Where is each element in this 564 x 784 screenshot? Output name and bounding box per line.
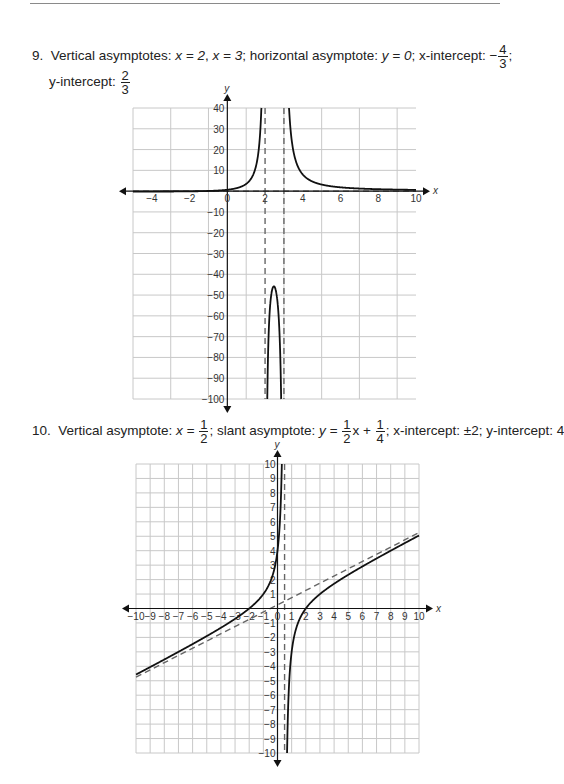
arrow-right-icon xyxy=(426,605,433,613)
x-tick-label: 7 xyxy=(374,611,380,622)
graph-problem-10: xy−10−9−8−7−6−5−4−3−2−101234567891010987… xyxy=(122,439,442,767)
x-tick-label: −4 xyxy=(215,611,227,622)
x-tick-label: −8 xyxy=(159,611,171,622)
x-tick-label: 5 xyxy=(345,611,351,622)
y-tick-label: −50 xyxy=(207,290,224,301)
x-tick-label: 3 xyxy=(317,611,323,622)
arrow-down-icon xyxy=(274,760,282,767)
y-tick-label: −8 xyxy=(264,719,276,730)
x-tick-label: −10 xyxy=(128,611,145,622)
y-tick-label: 30 xyxy=(213,124,225,135)
arrow-up-icon xyxy=(223,94,231,101)
y-tick-label: −10 xyxy=(259,748,276,759)
x-tick-label: −7 xyxy=(173,611,185,622)
y-tick-label: −9 xyxy=(264,734,276,745)
y-tick-label: −7 xyxy=(264,705,276,716)
y-tick-label: 40 xyxy=(213,103,225,114)
y-tick-label: −30 xyxy=(207,249,224,260)
y-tick-label: −70 xyxy=(207,332,224,343)
x-tick-label: −9 xyxy=(144,611,156,622)
x-tick-label: 10 xyxy=(410,193,422,204)
y-tick-label: 10 xyxy=(264,459,276,470)
x-tick-label: −5 xyxy=(201,611,213,622)
x-tick-label: 4 xyxy=(300,193,306,204)
x-tick-label: 0 xyxy=(275,611,281,622)
y-tick-label: 5 xyxy=(270,531,276,542)
y-tick-label: 10 xyxy=(213,165,225,176)
y-tick-label: 1 xyxy=(270,589,276,600)
y-tick-label: 9 xyxy=(270,473,276,484)
y-tick-label: 6 xyxy=(270,517,276,528)
graph-problem-9: xy−4−2024681040302010−10−20−30−40−50−60−… xyxy=(119,83,439,413)
y-axis-label: y xyxy=(223,83,230,94)
y-tick-label: −2 xyxy=(264,632,276,643)
grid-lines xyxy=(133,108,416,399)
x-tick-label: −2 xyxy=(184,193,196,204)
y-tick-label: 7 xyxy=(270,502,276,513)
y-tick-label: 8 xyxy=(270,488,276,499)
x-tick-label: 8 xyxy=(388,611,394,622)
x-tick-label: 9 xyxy=(402,611,408,622)
y-tick-label: −1 xyxy=(264,618,276,629)
arrow-right-icon xyxy=(423,187,430,195)
arrow-down-icon xyxy=(223,406,231,413)
x-tick-label: 1 xyxy=(289,611,295,622)
x-tick-label: 8 xyxy=(375,193,381,204)
y-tick-label: −3 xyxy=(264,647,276,658)
x-axis-label: x xyxy=(435,603,442,614)
x-tick-label: 6 xyxy=(360,611,366,622)
x-tick-label: 4 xyxy=(331,611,337,622)
y-tick-label: −10 xyxy=(207,207,224,218)
x-tick-label: 10 xyxy=(413,611,425,622)
x-tick-label: 6 xyxy=(338,193,344,204)
y-tick-label: −6 xyxy=(264,690,276,701)
y-tick-label: −90 xyxy=(207,373,224,384)
y-tick-label: −4 xyxy=(264,661,276,672)
arrow-left-icon xyxy=(119,187,126,195)
y-tick-label: −80 xyxy=(207,352,224,363)
x-tick-label: −6 xyxy=(187,611,199,622)
arrow-up-icon xyxy=(274,450,282,457)
x-tick-label: 0 xyxy=(225,193,231,204)
y-tick-label: −5 xyxy=(264,676,276,687)
y-tick-label: −100 xyxy=(202,394,225,405)
y-tick-label: 4 xyxy=(270,546,276,557)
y-tick-label: −40 xyxy=(207,269,224,280)
y-tick-label: 20 xyxy=(213,145,225,156)
axes: xy xyxy=(119,83,439,413)
x-tick-label: 2 xyxy=(262,193,268,204)
y-tick-label: −60 xyxy=(207,311,224,322)
x-axis-label: x xyxy=(432,185,439,196)
x-tick-label: −4 xyxy=(146,193,158,204)
y-axis-label: y xyxy=(274,439,281,450)
y-tick-label: −20 xyxy=(207,228,224,239)
